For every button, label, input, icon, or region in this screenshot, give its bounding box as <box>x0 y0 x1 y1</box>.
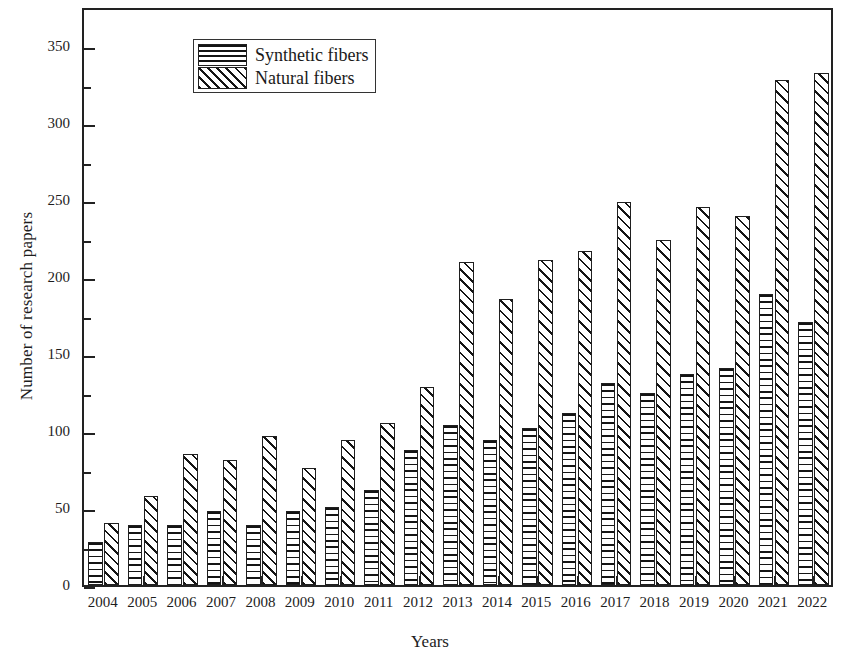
y-axis-minor-tick <box>84 395 91 397</box>
bar-natural-2019 <box>696 207 711 586</box>
bar-natural-2010 <box>341 440 356 585</box>
y-axis-major-tick <box>84 202 95 204</box>
y-axis-title: Number of research papers <box>17 176 37 436</box>
bar-natural-2017 <box>617 202 632 585</box>
y-axis-tick-label: 350 <box>10 38 70 55</box>
bar-synthetic-2019 <box>680 374 695 585</box>
y-axis-tick-label: 100 <box>10 423 70 440</box>
legend-item-synthetic-fibers: Synthetic fibers <box>198 43 368 66</box>
y-axis-major-tick <box>84 433 95 435</box>
bar-synthetic-2010 <box>325 507 340 585</box>
bar-synthetic-2017 <box>601 383 616 585</box>
y-axis-major-tick <box>84 510 95 512</box>
bar-natural-2008 <box>262 436 277 585</box>
bar-synthetic-2016 <box>562 413 577 585</box>
bar-synthetic-2015 <box>522 428 537 585</box>
bar-synthetic-2008 <box>246 525 261 585</box>
y-axis-major-tick <box>84 356 95 358</box>
bar-synthetic-2007 <box>207 511 222 585</box>
y-axis-major-tick <box>84 279 95 281</box>
bar-synthetic-2004 <box>88 542 103 585</box>
bar-natural-2022 <box>814 73 829 585</box>
x-axis-title: Years <box>0 632 860 652</box>
y-axis-minor-tick <box>84 241 91 243</box>
bar-natural-2013 <box>459 262 474 585</box>
x-axis-tick-label: 2022 <box>782 594 842 611</box>
y-axis-major-tick <box>84 587 95 589</box>
legend-item-natural-fibers: Natural fibers <box>198 66 368 89</box>
chart-legend: Synthetic fibers Natural fibers <box>193 39 376 93</box>
bar-natural-2012 <box>420 387 435 585</box>
y-axis-tick-label: 150 <box>10 346 70 363</box>
y-axis-minor-tick <box>84 318 91 320</box>
bar-natural-2018 <box>656 240 671 585</box>
y-axis-minor-tick <box>84 472 91 474</box>
bar-natural-2006 <box>183 454 198 585</box>
y-axis-major-tick <box>84 125 95 127</box>
bar-synthetic-2022 <box>798 322 813 585</box>
bar-synthetic-2012 <box>404 450 419 585</box>
bar-natural-2021 <box>775 80 790 585</box>
bar-natural-2007 <box>223 460 238 585</box>
y-axis-tick-label: 0 <box>10 577 70 594</box>
bar-chart-figure: Number of research papers Years 05010015… <box>0 0 860 660</box>
y-axis-tick-label: 200 <box>10 269 70 286</box>
plot-area: Synthetic fibers Natural fibers <box>82 8 833 587</box>
bar-synthetic-2006 <box>167 525 182 585</box>
bar-synthetic-2005 <box>128 525 143 585</box>
bar-natural-2015 <box>538 260 553 585</box>
bar-synthetic-2021 <box>759 294 774 585</box>
bar-natural-2016 <box>578 251 593 585</box>
bar-natural-2009 <box>302 468 317 585</box>
y-axis-minor-tick <box>84 164 91 166</box>
horizontal-lines-swatch-icon <box>198 44 247 66</box>
bar-synthetic-2013 <box>443 425 458 585</box>
legend-label-natural-fibers: Natural fibers <box>255 69 354 87</box>
y-axis-tick-label: 250 <box>10 192 70 209</box>
bar-synthetic-2014 <box>483 440 498 585</box>
bar-synthetic-2020 <box>719 368 734 585</box>
bar-synthetic-2018 <box>640 393 655 585</box>
bar-natural-2011 <box>380 423 395 585</box>
bar-natural-2014 <box>499 299 514 585</box>
bar-synthetic-2009 <box>286 511 301 585</box>
legend-label-synthetic-fibers: Synthetic fibers <box>255 46 368 64</box>
bar-synthetic-2011 <box>364 490 379 585</box>
bar-natural-2005 <box>144 496 159 585</box>
y-axis-major-tick <box>84 48 95 50</box>
y-axis-tick-label: 50 <box>10 500 70 517</box>
y-axis-tick-label: 300 <box>10 115 70 132</box>
bar-natural-2020 <box>735 216 750 585</box>
bar-natural-2004 <box>104 523 119 585</box>
diagonal-hatch-swatch-icon <box>198 67 247 89</box>
y-axis-minor-tick <box>84 87 91 89</box>
